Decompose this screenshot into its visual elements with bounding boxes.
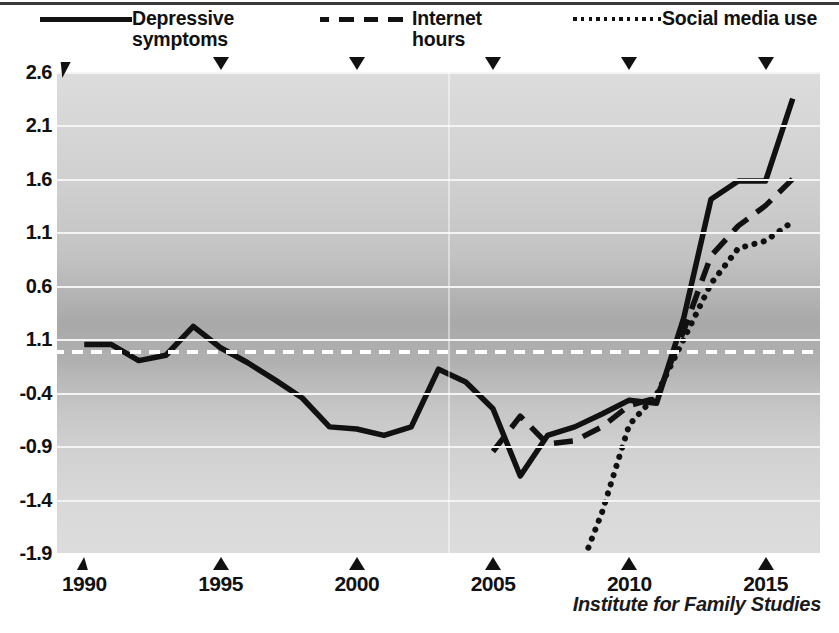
top-tick-marker (349, 57, 365, 70)
x-tick-label: 1995 (198, 572, 243, 596)
y-tick-label: 1.6 (0, 167, 52, 190)
top-tick-marker (213, 57, 229, 70)
page-fold-seam (448, 72, 450, 553)
gridline-4 (57, 286, 820, 288)
x-tick-marker (485, 557, 501, 570)
gridline-7 (57, 446, 820, 448)
x-tick-marker (349, 557, 365, 570)
y-tick-label: -1.9 (0, 542, 52, 565)
plot-area (57, 72, 820, 553)
top-tick-marker (758, 57, 774, 70)
x-tick-marker (213, 557, 229, 570)
y-tick-label: -0.9 (0, 435, 52, 458)
y-tick-label: 2.6 (0, 61, 52, 84)
gridline-8 (57, 500, 820, 502)
zero-reference-line (57, 350, 820, 354)
x-tick-label: 2000 (334, 572, 379, 596)
x-tick-label: 1990 (62, 572, 107, 596)
y-tick-label: -0.4 (0, 381, 52, 404)
top-tick-marker (621, 57, 637, 70)
gridline-2 (57, 179, 820, 181)
x-tick-marker (758, 557, 774, 570)
y-tick-label: -1.4 (0, 488, 52, 511)
y-axis: 2.62.11.61.10.61.1-0.4-0.9-1.4-1.9 (0, 0, 52, 633)
gridline-5 (57, 339, 820, 341)
y-tick-label: 2.1 (0, 114, 52, 137)
gridline-6 (57, 393, 820, 395)
gridline-1 (57, 125, 820, 127)
x-tick-label: 2005 (471, 572, 516, 596)
series-paths (57, 72, 820, 553)
x-tick-marker (621, 557, 637, 570)
gridline-3 (57, 232, 820, 234)
y-tick-label: 1.1 (0, 221, 52, 244)
y-tick-label: 0.6 (0, 274, 52, 297)
x-tick-marker (77, 557, 91, 570)
gridline-0 (57, 72, 820, 74)
chart-canvas: 2.62.11.61.10.61.1-0.4-0.9-1.4-1.9 19901… (0, 0, 839, 633)
attribution-label: Institute for Family Studies (573, 593, 821, 616)
y-tick-label: 1.1 (0, 328, 52, 351)
series-line-internet-hours (493, 179, 793, 452)
top-tick-marker (485, 57, 501, 70)
